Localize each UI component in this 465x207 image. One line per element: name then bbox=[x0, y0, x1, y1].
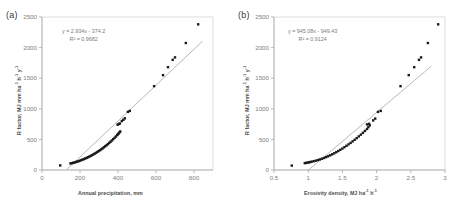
panel-b-data-point bbox=[354, 139, 356, 141]
panel-a-x-tick-label: 0 bbox=[40, 174, 44, 181]
panel-a-data-point bbox=[59, 164, 61, 166]
panel-a-x-tick-label: 600 bbox=[151, 174, 162, 181]
panel-b-data-point bbox=[366, 123, 368, 125]
panel-a-equation: y = 2.934x - 374.2 R² = 0.9682 bbox=[62, 27, 105, 43]
panel-b-x-tick-label: 3 bbox=[443, 174, 447, 181]
panel-b-data-point bbox=[343, 146, 345, 148]
panel-a-y-tick-label: 1500 bbox=[23, 74, 37, 81]
figure-container: (a) 050010001500200025000200400600800 y … bbox=[0, 0, 465, 207]
panel-a-y-tick-label: 2000 bbox=[23, 44, 37, 51]
panel-b-data-point bbox=[327, 155, 329, 157]
panel-a-y-tick-label: 500 bbox=[27, 136, 38, 143]
panel-a-data-point bbox=[197, 23, 199, 25]
panel-b-x-tick-label: 1.5 bbox=[338, 174, 347, 181]
panel-b-y-tick-label: 0 bbox=[266, 166, 270, 173]
panel-b-x-axis-title: Erosivity density, MJ ha-1 h-1 bbox=[304, 190, 377, 196]
panel-a-equation-r2: R² = 0.9682 bbox=[62, 35, 105, 43]
panel-b-y-tick-label: 500 bbox=[259, 136, 270, 143]
panel-a-y-axis-title: R factor, MJ mm ha-1 h-1 y-1 bbox=[16, 66, 22, 135]
panel-a-data-point bbox=[124, 117, 126, 119]
panel-b-data-point bbox=[368, 123, 370, 125]
panel-b-data-point bbox=[329, 154, 331, 156]
panel-b-data-point bbox=[345, 145, 347, 147]
panel-b-data-point bbox=[321, 158, 323, 160]
panel-b-trend-line bbox=[308, 66, 431, 170]
panel-b-data-point bbox=[374, 117, 376, 119]
panel-a-x-axis-title: Annual precipitation, mm bbox=[78, 190, 143, 196]
panel-b-equation-line1: y = 945.08x - 949.43 bbox=[288, 27, 337, 35]
panel-b-data-point bbox=[349, 142, 351, 144]
panel-b-data-point bbox=[358, 135, 360, 137]
panel-a-data-point bbox=[185, 42, 187, 44]
panel-b-data-point bbox=[360, 133, 362, 135]
panel-b-data-point bbox=[408, 74, 410, 76]
panel-b-data-point bbox=[319, 158, 321, 160]
panel-a: (a) 050010001500200025000200400600800 y … bbox=[0, 0, 232, 207]
panel-b-data-point bbox=[339, 149, 341, 151]
panel-b-data-point bbox=[362, 132, 364, 134]
panel-b-data-point bbox=[413, 66, 415, 68]
panel-b-data-point bbox=[315, 159, 317, 161]
panel-b-data-point bbox=[377, 111, 379, 113]
panel-a-trend-line bbox=[67, 41, 203, 169]
panel-a-y-tick-label: 1000 bbox=[23, 105, 37, 112]
panel-a-y-tick-label: 2500 bbox=[23, 13, 37, 20]
panel-a-y-tick-label: 0 bbox=[34, 166, 38, 173]
panel-a-x-tick-label: 200 bbox=[75, 174, 86, 181]
panel-b-x-tick-label: 0.5 bbox=[270, 174, 279, 181]
panel-b-data-point bbox=[351, 140, 353, 142]
panel-b-data-point bbox=[333, 152, 335, 154]
panel-b-data-point bbox=[337, 150, 339, 152]
panel-a-plot: 050010001500200025000200400600800 bbox=[0, 0, 232, 207]
panel-b-y-tick-label: 2000 bbox=[255, 44, 269, 51]
panel-b-data-point bbox=[323, 157, 325, 159]
panel-b-data-point bbox=[427, 42, 429, 44]
panel-b-data-point bbox=[347, 143, 349, 145]
panel-a-data-point bbox=[119, 130, 121, 132]
panel-b-data-point bbox=[399, 85, 401, 87]
panel-a-data-point bbox=[129, 110, 131, 112]
panel-b-plot: 050010001500200025000.511.522.53 bbox=[232, 0, 464, 207]
panel-a-data-point bbox=[162, 74, 164, 76]
panel-b: (b) 050010001500200025000.511.522.53 y =… bbox=[232, 0, 464, 207]
panel-a-x-tick-label: 400 bbox=[113, 174, 124, 181]
panel-b-data-point bbox=[335, 151, 337, 153]
panel-b-x-tick-label: 2.5 bbox=[406, 174, 415, 181]
panel-b-data-point bbox=[380, 110, 382, 112]
panel-b-equation: y = 945.08x - 949.43 R² = 0.9124 bbox=[288, 27, 337, 43]
panel-a-data-point bbox=[174, 56, 176, 58]
panel-b-y-axis-title: R factor, MJ mm ha-1 h-1 y-1 bbox=[244, 66, 250, 135]
panel-a-x-tick-label: 800 bbox=[189, 174, 200, 181]
panel-b-data-point bbox=[420, 56, 422, 58]
panel-a-equation-line1: y = 2.934x - 374.2 bbox=[62, 27, 105, 35]
panel-b-data-point bbox=[364, 130, 366, 132]
panel-b-data-point bbox=[372, 119, 374, 121]
panel-b-data-point bbox=[418, 59, 420, 61]
panel-b-data-point bbox=[331, 153, 333, 155]
panel-b-data-point bbox=[325, 156, 327, 158]
panel-b-equation-r2: R² = 0.9124 bbox=[288, 35, 337, 43]
panel-a-data-point bbox=[172, 59, 174, 61]
panel-b-y-tick-label: 1000 bbox=[255, 105, 269, 112]
panel-b-y-tick-label: 1500 bbox=[255, 74, 269, 81]
panel-a-data-point bbox=[167, 66, 169, 68]
panel-b-x-tick-label: 1 bbox=[306, 174, 310, 181]
panel-b-data-point bbox=[291, 164, 293, 166]
panel-b-x-tick-label: 2 bbox=[375, 174, 379, 181]
panel-b-data-point bbox=[317, 159, 319, 161]
panel-b-data-point bbox=[341, 147, 343, 149]
panel-b-y-tick-label: 2500 bbox=[255, 13, 269, 20]
panel-a-data-point bbox=[119, 122, 121, 124]
panel-b-data-point bbox=[437, 23, 439, 25]
panel-b-data-point bbox=[356, 137, 358, 139]
panel-b-data-point bbox=[310, 160, 312, 162]
panel-b-data-point bbox=[312, 160, 314, 162]
panel-a-data-point bbox=[153, 85, 155, 87]
